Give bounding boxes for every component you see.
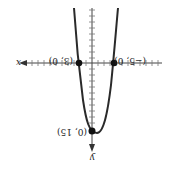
label-point-neg5-0: (−5, 0) xyxy=(114,56,146,66)
y-axis-arrow-icon xyxy=(89,144,95,152)
label-point-3-0: (3, 0) xyxy=(49,56,73,66)
label-point-0-15: (0, 15) xyxy=(57,127,87,137)
parabola-graph: (3, 0) (−5, 0) (0, 15) x y xyxy=(0,0,175,177)
x-axis-label: x xyxy=(16,58,21,68)
y-axis-label: y xyxy=(89,153,96,163)
parabola-curve xyxy=(74,8,118,133)
point-x-intercept-3 xyxy=(76,60,83,67)
point-y-intercept xyxy=(89,128,96,135)
